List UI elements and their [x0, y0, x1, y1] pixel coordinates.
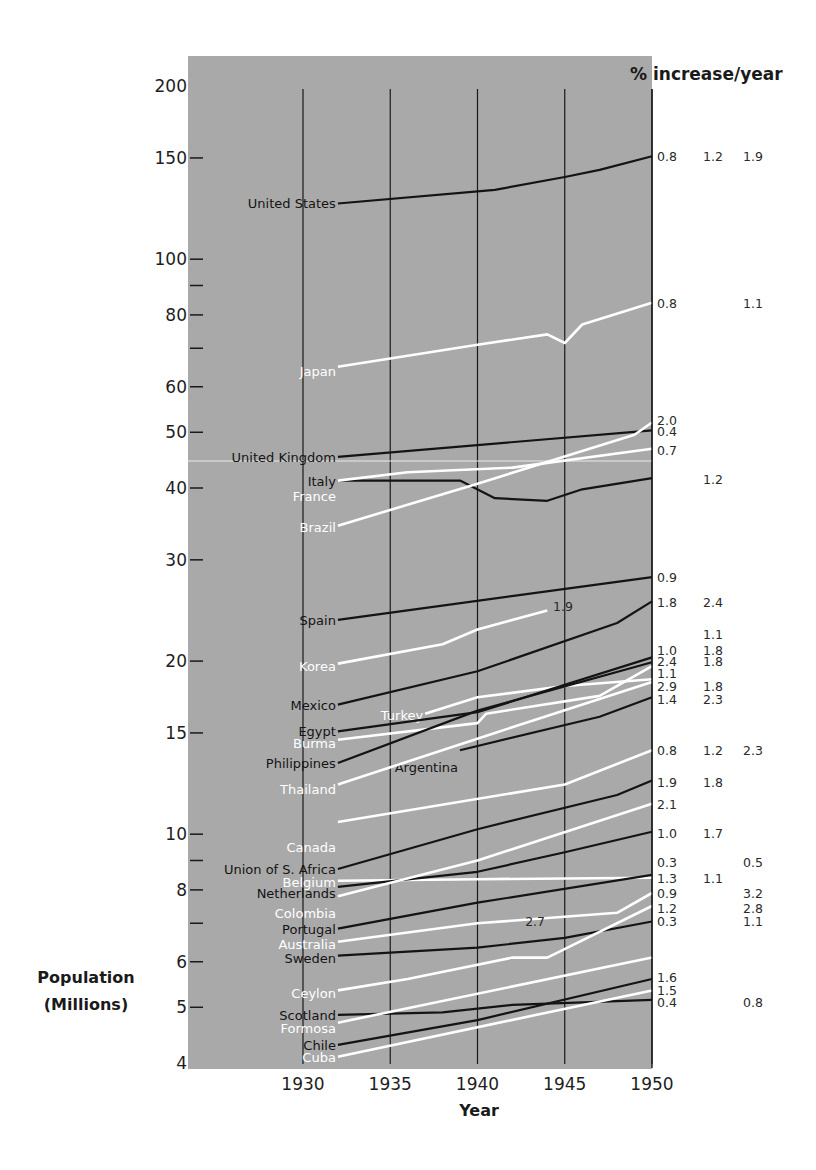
series-label: Australia: [278, 937, 336, 952]
rate-value: 3.2: [743, 886, 763, 901]
rate-value: 0.3: [657, 914, 677, 929]
rate-value: 1.8: [703, 775, 723, 790]
x-tick-label: 1945: [543, 1074, 586, 1094]
x-axis-title: Year: [458, 1101, 499, 1120]
rate-columns: 0.81.21.90.81.12.00.40.71.20.91.82.41.11…: [652, 89, 763, 1068]
y-tick-label: 40: [165, 478, 187, 498]
rate-value: 1.3: [657, 871, 677, 886]
series-label: Italy: [308, 474, 337, 489]
series-label: Brazil: [300, 520, 336, 535]
series-label: Sweden: [285, 951, 336, 966]
series-label: Cuba: [302, 1050, 336, 1065]
rate-value: 0.9: [657, 886, 677, 901]
rate-value: 1.4: [657, 692, 677, 707]
population-growth-chart: 20015010080605040302015108654 1930193519…: [0, 0, 816, 1170]
y-tick-label: 10: [165, 824, 187, 844]
y-tick-label: 50: [165, 422, 187, 442]
rate-value: 2.3: [743, 743, 763, 758]
annotation-label: 2.7: [525, 914, 545, 929]
rate-value: 1.9: [657, 775, 677, 790]
series-label: Mexico: [290, 698, 335, 713]
rate-value: 2.1: [657, 797, 677, 812]
x-tick-label: 1940: [456, 1074, 499, 1094]
series-label: Thailand: [279, 782, 336, 797]
rate-value: 1.7: [703, 826, 723, 841]
series-label: Canada: [286, 840, 335, 855]
rate-value: 1.8: [703, 654, 723, 669]
rate-value: 2.4: [703, 595, 723, 610]
rate-value: 1.1: [743, 914, 763, 929]
y-tick-label: 8: [176, 880, 187, 900]
y-axis-title-line2: (Millions): [44, 995, 128, 1014]
series-label: France: [293, 489, 336, 504]
rate-value: 1.9: [743, 149, 763, 164]
y-tick-label: 4: [176, 1053, 187, 1073]
rate-value: 0.4: [657, 424, 677, 439]
rate-value: 1.0: [657, 826, 677, 841]
rate-value: 0.8: [743, 995, 763, 1010]
y-tick-label: 30: [165, 550, 187, 570]
series-label: Colombia: [275, 906, 336, 921]
rate-value: 1.2: [657, 901, 677, 916]
rate-value: 0.5: [743, 855, 763, 870]
series-label: United Kingdom: [232, 450, 336, 465]
series-label: Korea: [299, 659, 336, 674]
series-label: Japan: [299, 364, 336, 379]
y-tick-label: 100: [155, 249, 187, 269]
rate-value: 1.1: [743, 296, 763, 311]
y-tick-label: 80: [165, 305, 187, 325]
y-axis-title-line1: Population: [37, 968, 134, 987]
series-label: Formosa: [280, 1021, 335, 1036]
y-tick-label: 200: [155, 76, 187, 96]
rate-value: 1.1: [703, 871, 723, 886]
x-tick-label: 1935: [369, 1074, 412, 1094]
y-tick-label: 20: [165, 651, 187, 671]
rate-header: % increase/year: [630, 64, 783, 84]
y-tick-label: 60: [165, 377, 187, 397]
y-tick-label: 6: [176, 952, 187, 972]
annotation-label: 1.9: [553, 599, 573, 614]
series-label: Netherlands: [257, 886, 336, 901]
rate-value: 0.8: [657, 149, 677, 164]
rate-value: 1.8: [657, 595, 677, 610]
rate-value: 0.4: [657, 995, 677, 1010]
rate-value: 2.8: [743, 901, 763, 916]
y-tick-label: 5: [176, 997, 187, 1017]
series-label: Portugal: [282, 922, 336, 937]
x-tick-label: 1930: [281, 1074, 324, 1094]
series-label: United States: [248, 196, 336, 211]
series-label: Burma: [293, 736, 336, 751]
rate-value: 0.9: [657, 570, 677, 585]
rate-value: 1.2: [703, 743, 723, 758]
rate-value: 1.2: [703, 472, 723, 487]
rate-value: 0.8: [657, 743, 677, 758]
series-label: Spain: [300, 613, 336, 628]
rate-value: 1.1: [703, 627, 723, 642]
series-label: Ceylon: [291, 986, 336, 1001]
x-tick-label: 1950: [630, 1074, 673, 1094]
y-tick-label: 15: [165, 723, 187, 743]
rate-value: 0.8: [657, 296, 677, 311]
rate-value: 1.2: [703, 149, 723, 164]
series-label: Philippines: [266, 756, 336, 771]
x-axis-ticks: 19301935194019451950: [281, 1074, 673, 1094]
rate-value: 0.7: [657, 443, 677, 458]
rate-value: 0.3: [657, 855, 677, 870]
rate-value: 2.3: [703, 692, 723, 707]
y-tick-label: 150: [155, 148, 187, 168]
